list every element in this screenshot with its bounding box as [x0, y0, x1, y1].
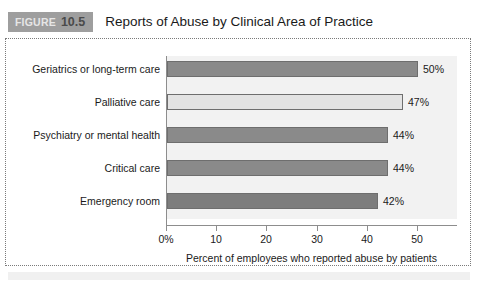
bar-row: Emergency room42% [6, 192, 472, 210]
x-tick-mark [367, 226, 368, 231]
x-tick-label: 30 [311, 233, 323, 245]
x-tick-mark [417, 226, 418, 231]
x-tick-label: 50 [411, 233, 423, 245]
bar [167, 94, 403, 110]
x-tick-mark [216, 226, 217, 231]
bar [167, 160, 388, 176]
x-tick-label: 20 [260, 233, 272, 245]
bar-category-label: Emergency room [6, 192, 160, 210]
x-tick-label: 0% [158, 233, 173, 245]
figure-number-badge: FIGURE 10.5 [8, 12, 93, 32]
bar-value-label: 42% [383, 192, 404, 210]
bar-category-label: Palliative care [6, 93, 160, 111]
bar-row: Critical care44% [6, 159, 472, 177]
bar-category-label: Geriatrics or long-term care [6, 60, 160, 78]
page-scan-band [8, 272, 470, 280]
bar [167, 127, 388, 143]
x-tick-mark [166, 226, 167, 231]
bar-value-label: 50% [423, 60, 444, 78]
figure-badge-word: FIGURE [15, 16, 56, 28]
bar-category-label: Critical care [6, 159, 160, 177]
figure-header: FIGURE 10.5 Reports of Abuse by Clinical… [8, 12, 373, 32]
figure-container: FIGURE 10.5 Reports of Abuse by Clinical… [0, 0, 478, 288]
bar-row: Geriatrics or long-term care50% [6, 60, 472, 78]
x-tick-mark [317, 226, 318, 231]
x-tick-label: 10 [210, 233, 222, 245]
bar-value-label: 44% [393, 126, 414, 144]
bar-value-label: 44% [393, 159, 414, 177]
bar-value-label: 47% [408, 93, 429, 111]
figure-badge-number: 10.5 [61, 15, 85, 29]
chart-plot-area: Geriatrics or long-term care50%Palliativ… [6, 39, 472, 267]
x-tick-mark [266, 226, 267, 231]
bar-category-label: Psychiatry or mental health [6, 126, 160, 144]
value-axis-line [166, 225, 457, 226]
figure-frame: Geriatrics or long-term care50%Palliativ… [5, 38, 471, 266]
bar-row: Psychiatry or mental health44% [6, 126, 472, 144]
bar [167, 61, 418, 77]
x-axis-label: Percent of employees who reported abuse … [166, 252, 457, 264]
figure-title: Reports of Abuse by Clinical Area of Pra… [105, 12, 373, 32]
bar-row: Palliative care47% [6, 93, 472, 111]
x-tick-label: 40 [361, 233, 373, 245]
bar [167, 193, 378, 209]
